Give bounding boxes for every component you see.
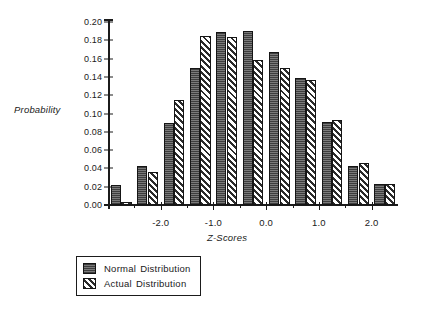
bar [306, 80, 316, 205]
y-tick-mark [104, 58, 113, 59]
x-tick-label: 1.0 [312, 218, 326, 228]
y-axis-line [108, 19, 110, 209]
bar [190, 68, 200, 205]
bar [200, 36, 210, 205]
bar [111, 185, 121, 205]
y-tick-label: 0.16 [70, 54, 102, 63]
y-tick-label: 0.18 [70, 36, 102, 45]
legend-item: ActualDistribution [83, 276, 191, 291]
bar [295, 78, 305, 205]
y-tick-label: 0.00 [70, 201, 102, 210]
bar [227, 37, 237, 205]
plot-area: 0.200.180.160.140.120.100.080.060.040.02… [108, 22, 398, 206]
bar [322, 122, 332, 205]
y-tick-mark [104, 22, 113, 23]
chart-legend: NormalDistributionActualDistribution [76, 256, 201, 296]
bar [253, 60, 263, 205]
bar [174, 100, 184, 205]
legend-swatch-actual [83, 278, 96, 289]
y-tick-label: 0.02 [70, 182, 102, 191]
y-tick-mark [104, 168, 113, 169]
y-tick-mark [104, 131, 113, 132]
x-tick-mark [266, 202, 267, 210]
x-minor-tick-mark [134, 204, 135, 208]
legend-label: ActualDistribution [104, 278, 186, 289]
x-axis-label: Z-Scores [207, 232, 247, 243]
x-tick-mark [213, 202, 214, 210]
bar [348, 166, 358, 205]
x-tick-label: 2.0 [365, 218, 379, 228]
chart-figure: Probability Z-Scores 0.200.180.160.140.1… [0, 0, 431, 316]
y-tick-mark [104, 40, 113, 41]
bar [332, 120, 342, 205]
x-tick-mark [319, 202, 320, 210]
legend-label: NormalDistribution [104, 263, 191, 274]
x-minor-tick-mark [187, 204, 188, 208]
x-minor-tick-mark [293, 204, 294, 208]
x-minor-tick-mark [240, 204, 241, 208]
bar [385, 184, 395, 205]
y-tick-mark [104, 95, 113, 96]
bar [216, 32, 226, 205]
x-minor-tick-mark [345, 204, 346, 208]
bar [137, 166, 147, 205]
y-axis-label: Probability [14, 104, 61, 115]
y-tick-label: 0.20 [70, 18, 102, 27]
y-axis-top-cap [104, 19, 113, 21]
y-tick-label: 0.04 [70, 164, 102, 173]
bar [243, 31, 253, 205]
legend-item: NormalDistribution [83, 261, 191, 276]
y-tick-label: 0.10 [70, 109, 102, 118]
bar [164, 123, 174, 205]
x-tick-mark [372, 202, 373, 210]
bar [280, 68, 290, 205]
x-tick-mark [161, 202, 162, 210]
y-tick-mark [104, 113, 113, 114]
bar [359, 163, 369, 205]
y-tick-label: 0.12 [70, 91, 102, 100]
legend-swatch-normal [83, 263, 96, 274]
x-tick-label: -1.0 [205, 218, 222, 228]
bar [269, 52, 279, 205]
y-tick-mark [104, 150, 113, 151]
bar [374, 184, 384, 205]
y-tick-label: 0.14 [70, 72, 102, 81]
bar [121, 202, 131, 205]
bar [148, 172, 158, 205]
x-tick-label: -2.0 [152, 218, 169, 228]
x-tick-label: 0.0 [259, 218, 273, 228]
y-tick-mark [104, 76, 113, 77]
y-tick-label: 0.08 [70, 127, 102, 136]
y-tick-label: 0.06 [70, 146, 102, 155]
